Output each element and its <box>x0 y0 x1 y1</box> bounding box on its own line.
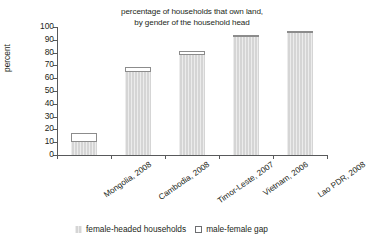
bar-segment-female-headed-timor-leste[interactable] <box>179 55 205 155</box>
x-axis-line <box>57 155 328 156</box>
x-category-label-mongolia: Mongolia, 2008 <box>102 160 154 200</box>
y-tick-label-100: 100 <box>40 21 54 32</box>
x-tick-4 <box>273 155 274 159</box>
y-tick-label-50: 50 <box>45 85 54 96</box>
legend-item-male-female-gap[interactable]: male-female gap <box>195 224 268 234</box>
bar-segment-female-headed-lao-pdr[interactable] <box>287 33 313 155</box>
y-tick-label-20: 20 <box>45 123 54 134</box>
legend-swatch-filled-gray-icon <box>75 226 82 233</box>
bar-group-lao-pdr[interactable] <box>287 27 313 155</box>
y-axis-line <box>57 27 58 155</box>
legend-label-male-female-gap: male-female gap <box>206 224 268 234</box>
bar-group-vietnam[interactable] <box>233 27 259 155</box>
bar-segment-female-headed-vietnam[interactable] <box>233 37 259 155</box>
x-tick-3 <box>219 155 220 159</box>
y-tick-label-40: 40 <box>45 98 54 109</box>
y-tick-label-80: 80 <box>45 47 54 58</box>
x-category-label-lao-pdr: Lao PDR, 2008 <box>316 160 368 200</box>
legend-swatch-outlined-white-icon <box>195 226 202 233</box>
chart-title-line-1: percentage of households that own land, <box>62 6 322 17</box>
bar-segment-male-female-gap-mongolia[interactable] <box>71 133 97 142</box>
y-tick-label-90: 90 <box>45 34 54 45</box>
x-tick-1 <box>111 155 112 159</box>
y-tick-label-60: 60 <box>45 72 54 83</box>
y-tick-label-30: 30 <box>45 111 54 122</box>
bar-group-cambodia[interactable] <box>125 27 151 155</box>
x-category-label-cambodia: Cambodia, 2008 <box>157 160 212 203</box>
y-tick-label-10: 10 <box>45 136 54 147</box>
bar-segment-male-female-gap-lao-pdr[interactable] <box>287 31 313 34</box>
x-tick-5 <box>327 155 328 159</box>
x-tick-2 <box>165 155 166 159</box>
bar-segment-male-female-gap-cambodia[interactable] <box>125 67 151 72</box>
x-tick-0 <box>57 155 58 159</box>
bar-group-mongolia[interactable] <box>71 27 97 155</box>
chart-title: percentage of households that own land, … <box>62 6 322 28</box>
bar-group-timor-leste[interactable] <box>179 27 205 155</box>
chart-legend: female-headed households male-female gap <box>0 224 343 234</box>
x-category-label-timor-leste: Timor-Leste, 2007 <box>216 160 276 206</box>
bar-segment-female-headed-mongolia[interactable] <box>71 142 97 155</box>
bar-segment-male-female-gap-vietnam[interactable] <box>233 35 259 37</box>
y-axis-title: percent <box>2 44 12 72</box>
bar-segment-male-female-gap-timor-leste[interactable] <box>179 51 205 55</box>
plot-area: 0 10 20 30 40 50 60 70 <box>57 27 328 155</box>
legend-item-female-headed-households[interactable]: female-headed households <box>75 224 186 234</box>
legend-label-female-headed-households: female-headed households <box>86 224 186 234</box>
bar-segment-female-headed-cambodia[interactable] <box>125 72 151 155</box>
y-tick-label-70: 70 <box>45 59 54 70</box>
y-tick-label-0: 0 <box>49 149 54 160</box>
